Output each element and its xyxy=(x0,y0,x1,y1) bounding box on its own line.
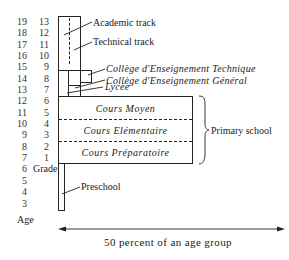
lycee-label: Lycée xyxy=(105,82,130,92)
preschool-leader-line xyxy=(62,187,80,194)
academic-leader-line xyxy=(64,22,92,35)
college-technique-label: Collège d'Enseignement Technique xyxy=(106,64,256,74)
preschool-label: Preschool xyxy=(81,182,120,192)
primary-school-label: Primary school xyxy=(211,126,272,136)
scale-arrow-left-head xyxy=(58,227,66,232)
technical-track-label: Technical track xyxy=(93,37,154,47)
lycee-leader-line xyxy=(67,87,103,93)
technical-leader-line xyxy=(74,42,92,50)
scale-arrow-right-head xyxy=(277,227,285,232)
primary-bracket xyxy=(199,96,209,164)
academic-track-label: Academic track xyxy=(93,18,156,28)
college-technique-leader-line xyxy=(88,69,105,75)
scale-label: 50 percent of an age group xyxy=(104,237,232,247)
college-general-leader-line xyxy=(75,80,105,88)
